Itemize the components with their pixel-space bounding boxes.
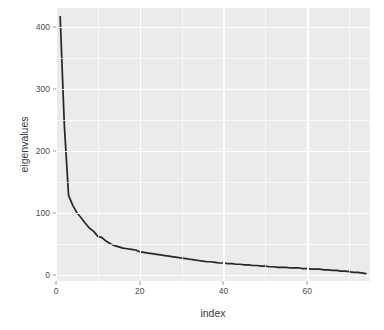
gridline-minor-horizontal [56, 182, 370, 183]
gridline-major-horizontal [56, 27, 370, 28]
plot-panel [56, 8, 370, 281]
scree-plot-figure: 0100200300400 0204060 index eigenvalues [0, 0, 384, 330]
y-tick-marks [52, 8, 56, 281]
gridline-major-vertical [307, 8, 308, 281]
y-tick-label: 0 [45, 271, 50, 280]
y-tick-mark [53, 26, 56, 27]
y-tick-label: 100 [36, 209, 50, 218]
x-axis-title: index [56, 307, 370, 319]
gridline-major-vertical [140, 8, 141, 281]
y-tick-mark [53, 212, 56, 213]
gridline-major-horizontal [56, 275, 370, 276]
x-tick-mark [307, 281, 308, 285]
gridline-minor-vertical [349, 8, 350, 281]
y-tick-label: 200 [36, 146, 50, 155]
y-tick-mark [53, 88, 56, 89]
gridline-minor-vertical [265, 8, 266, 281]
gridline-major-horizontal [56, 151, 370, 152]
x-tick-label: 0 [54, 287, 59, 296]
x-tick-mark [223, 281, 224, 285]
gridline-minor-vertical [98, 8, 99, 281]
x-tick-mark [139, 281, 140, 285]
gridline-major-vertical [56, 8, 57, 281]
x-tick-mark [56, 281, 57, 285]
x-tick-label: 60 [302, 287, 311, 296]
x-tick-label: 40 [219, 287, 228, 296]
y-tick-label: 400 [36, 22, 50, 31]
y-tick-mark [53, 150, 56, 151]
gridline-minor-horizontal [56, 120, 370, 121]
gridline-minor-horizontal [56, 244, 370, 245]
gridline-minor-vertical [182, 8, 183, 281]
gridline-major-horizontal [56, 213, 370, 214]
x-tick-label: 20 [135, 287, 144, 296]
y-tick-mark [53, 274, 56, 275]
y-tick-label: 300 [36, 84, 50, 93]
y-axis-title: eigenvalues [16, 8, 32, 281]
x-axis: 0204060 [56, 281, 370, 307]
gridline-major-horizontal [56, 89, 370, 90]
eigenvalue-curve [56, 8, 370, 281]
gridline-minor-horizontal [56, 58, 370, 59]
gridline-major-vertical [223, 8, 224, 281]
